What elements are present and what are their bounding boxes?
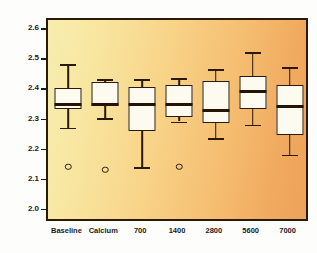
boxplot-box-group bbox=[48, 22, 306, 221]
whisker-cap-lower bbox=[282, 155, 298, 157]
y-tick-mark bbox=[41, 28, 46, 30]
whisker-lower bbox=[289, 135, 291, 155]
x-tick-label: 5600 bbox=[242, 226, 259, 235]
x-tick-label: 700 bbox=[134, 226, 147, 235]
y-tick-label: 2.5 bbox=[28, 53, 39, 62]
y-tick-label: 2.4 bbox=[28, 83, 39, 92]
x-tick-label: 2800 bbox=[206, 226, 223, 235]
y-tick-label: 2.3 bbox=[28, 114, 39, 123]
iqr-box bbox=[276, 85, 303, 135]
y-tick-label: 2.2 bbox=[28, 144, 39, 153]
y-tick-mark bbox=[41, 209, 46, 211]
x-tick-label: Baseline bbox=[51, 226, 82, 235]
y-tick-label: 2.0 bbox=[28, 204, 39, 213]
y-tick-mark bbox=[41, 179, 46, 181]
x-tick-label: 7000 bbox=[279, 226, 296, 235]
y-tick-mark bbox=[41, 58, 46, 60]
whisker-cap-upper bbox=[282, 67, 298, 69]
y-tick-mark bbox=[41, 119, 46, 121]
x-tick-label: 1400 bbox=[169, 226, 186, 235]
y-tick-mark bbox=[41, 149, 46, 151]
boxplot-series-layer bbox=[48, 20, 306, 219]
plot-area bbox=[46, 18, 308, 221]
x-tick-label: Calcium bbox=[89, 226, 118, 235]
boxplot-figure: Serum calcium (mmol/l) 2.02.12.22.32.42.… bbox=[0, 0, 317, 253]
median-line bbox=[276, 105, 303, 108]
whisker-upper bbox=[289, 67, 291, 85]
y-tick-label: 2.6 bbox=[28, 23, 39, 32]
y-tick-label: 2.1 bbox=[28, 174, 39, 183]
y-tick-mark bbox=[41, 88, 46, 90]
